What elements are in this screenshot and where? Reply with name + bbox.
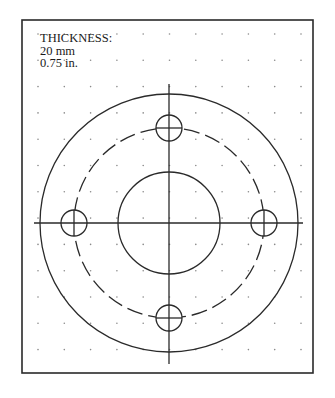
grid-dot (195, 296, 197, 298)
grid-dot (90, 86, 92, 88)
grid-dot (195, 270, 197, 272)
grid-dot (142, 165, 144, 167)
grid-dot (248, 112, 250, 114)
grid-dot (116, 217, 118, 219)
grid-dot (300, 217, 302, 219)
grid-dot (90, 165, 92, 167)
grid-dot (90, 112, 92, 114)
grid-dot (142, 138, 144, 140)
grid-dot (195, 244, 197, 246)
grid-dot (64, 270, 66, 272)
grid-dot (90, 138, 92, 140)
grid-dot (221, 349, 223, 351)
thickness-title: THICKNESS: (40, 32, 112, 45)
grid-dot (142, 86, 144, 88)
grid-dot (142, 270, 144, 272)
grid-dot (248, 270, 250, 272)
grid-dot (142, 244, 144, 246)
grid-dot (90, 323, 92, 325)
grid-dot (37, 191, 39, 193)
thickness-label: THICKNESS: 20 mm 0.75 in. (40, 32, 112, 70)
grid-dot (90, 217, 92, 219)
grid-dot (37, 217, 39, 219)
grid-dot (64, 191, 66, 193)
grid-dot (90, 244, 92, 246)
grid-dot (274, 323, 276, 325)
grid-dot (37, 33, 39, 35)
grid-dot (195, 323, 197, 325)
grid-dot (64, 112, 66, 114)
grid-dot (248, 33, 250, 35)
grid-dot (116, 33, 118, 35)
grid-dot (37, 296, 39, 298)
grid-dot (37, 244, 39, 246)
grid-dot (221, 217, 223, 219)
grid-dot (142, 217, 144, 219)
grid-dot (37, 60, 39, 62)
grid-dot (221, 296, 223, 298)
grid-dot (248, 244, 250, 246)
grid-dot (221, 112, 223, 114)
grid-dot (195, 217, 197, 219)
grid-dot (37, 270, 39, 272)
grid-dot (116, 323, 118, 325)
grid-dot (300, 191, 302, 193)
grid-dot (248, 296, 250, 298)
grid-dot (142, 296, 144, 298)
grid-dot (274, 270, 276, 272)
grid-dot (300, 165, 302, 167)
grid-dot (116, 60, 118, 62)
grid-dot (116, 349, 118, 351)
grid-dot (142, 191, 144, 193)
grid-dot (64, 323, 66, 325)
grid-dot (300, 33, 302, 35)
grid-dot (248, 349, 250, 351)
grid-dot (300, 86, 302, 88)
grid-dot (274, 33, 276, 35)
grid-dot (116, 296, 118, 298)
grid-dot (142, 60, 144, 62)
grid-dot (274, 60, 276, 62)
grid-dot (37, 138, 39, 140)
grid-dot (274, 165, 276, 167)
grid-dot (195, 165, 197, 167)
grid-dot (116, 191, 118, 193)
grid-dot (248, 138, 250, 140)
grid-dot (221, 86, 223, 88)
grid-dot (221, 165, 223, 167)
grid-dot (116, 112, 118, 114)
grid-dot (300, 112, 302, 114)
grid-dot (195, 191, 197, 193)
grid-dot (37, 349, 39, 351)
grid-dot (142, 112, 144, 114)
grid-dot (274, 138, 276, 140)
grid-dot (300, 296, 302, 298)
grid-dot (248, 86, 250, 88)
grid-dot (64, 244, 66, 246)
grid-dot (274, 86, 276, 88)
grid-dot (195, 112, 197, 114)
grid-dot (116, 138, 118, 140)
grid-dot (64, 86, 66, 88)
grid-dot (300, 244, 302, 246)
grid-dot (274, 349, 276, 351)
grid-dot (221, 244, 223, 246)
grid-dot (248, 165, 250, 167)
grid-dot (169, 33, 171, 35)
grid-dot (274, 112, 276, 114)
grid-dot (195, 86, 197, 88)
grid-dot (248, 191, 250, 193)
grid-dot (300, 60, 302, 62)
grid-dot (300, 323, 302, 325)
grid-dot (221, 138, 223, 140)
grid-dot (90, 191, 92, 193)
grid-dot (300, 138, 302, 140)
grid-dot (300, 270, 302, 272)
grid-dot (221, 33, 223, 35)
grid-dot (116, 165, 118, 167)
grid-dot (248, 60, 250, 62)
grid-dot (169, 60, 171, 62)
grid-dot (64, 138, 66, 140)
grid-dot (142, 33, 144, 35)
grid-dot (37, 86, 39, 88)
